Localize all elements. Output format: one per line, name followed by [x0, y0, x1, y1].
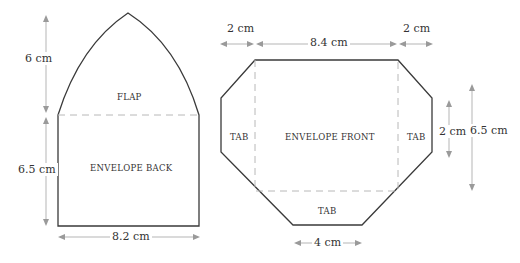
front-outline — [221, 60, 432, 225]
flap-label: FLAP — [117, 92, 142, 102]
bottom-tab-width-label: 4 cm — [312, 236, 343, 249]
side-tab-height-label: 2 cm — [437, 125, 468, 138]
arrow-right-icon — [426, 41, 433, 47]
arrow-down-icon — [43, 106, 49, 113]
flap-height-label: 6 cm — [23, 52, 54, 65]
arrow-left-icon — [399, 41, 406, 47]
arrow-left-icon — [294, 240, 301, 246]
envelope-back-piece — [58, 13, 199, 226]
right-tab-label: TAB — [407, 132, 426, 142]
back-width-label: 8.2 cm — [110, 230, 152, 243]
arrow-up-icon — [43, 117, 49, 124]
front-width-label: 8.4 cm — [308, 36, 350, 49]
left-tab-label: TAB — [230, 132, 249, 142]
arrow-right-icon — [355, 240, 362, 246]
back-outline — [58, 13, 199, 226]
envelope-front-label: ENVELOPE FRONT — [285, 132, 375, 142]
arrow-up-icon — [469, 84, 475, 91]
envelope-back-label: ENVELOPE BACK — [90, 163, 172, 173]
arrow-left-icon — [220, 41, 227, 47]
front-fold-lines — [255, 60, 398, 191]
bottom-tab-label: TAB — [318, 206, 337, 216]
arrow-left-icon — [256, 41, 263, 47]
arrow-right-icon — [193, 234, 200, 240]
front-height-label: 6.5 cm — [468, 124, 510, 137]
arrow-down-icon — [446, 151, 452, 158]
arrow-down-icon — [43, 219, 49, 226]
right-tab-width-label: 2 cm — [401, 22, 432, 35]
arrow-up-icon — [446, 100, 452, 107]
back-dimensions — [43, 15, 200, 240]
envelope-front-piece — [221, 60, 432, 225]
arrow-right-icon — [247, 41, 254, 47]
back-height-label: 6.5 cm — [16, 163, 58, 176]
left-tab-width-label: 2 cm — [225, 22, 256, 35]
arrow-up-icon — [43, 15, 49, 22]
arrow-down-icon — [469, 184, 475, 191]
arrow-left-icon — [58, 234, 65, 240]
front-dimensions — [220, 41, 475, 246]
arrow-right-icon — [390, 41, 397, 47]
